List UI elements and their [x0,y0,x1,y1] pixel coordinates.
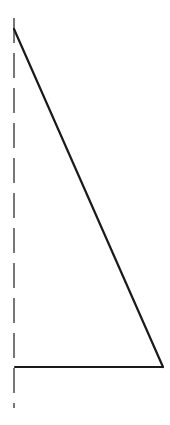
hypotenuse-line [14,29,163,367]
diagram-canvas [0,0,170,425]
triangle-diagram [0,0,170,425]
